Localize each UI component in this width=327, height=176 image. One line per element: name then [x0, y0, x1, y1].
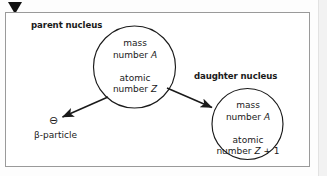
spacer	[104, 65, 166, 69]
daughter-nucleus-text: mass number A atomic number Z + 1	[210, 100, 286, 158]
daughter-mass-number-line: number A	[210, 112, 286, 124]
spacer	[210, 127, 286, 131]
beta-particle-label: β-particle	[18, 130, 93, 140]
parent-nucleus-text: mass number A atomic number Z	[104, 38, 166, 96]
mass-number-symbol: A	[151, 50, 157, 60]
parent-nucleus-caption: parent nucleus	[31, 20, 102, 30]
parent-mass-line: mass	[104, 38, 166, 50]
mass-number-symbol: A	[264, 112, 270, 122]
page-edge	[318, 0, 327, 176]
daughter-atomic-line: atomic	[210, 135, 286, 147]
beta-decay-diagram: parent nucleus daughter nucleus mass num…	[0, 0, 327, 176]
atomic-number-increment: + 1	[261, 146, 280, 156]
daughter-atomic-number-line: number Z + 1	[210, 146, 286, 158]
daughter-mass-line: mass	[210, 100, 286, 112]
atomic-number-symbol: Z	[151, 84, 157, 94]
parent-atomic-number-line: number Z	[104, 84, 166, 96]
parent-atomic-line: atomic	[104, 73, 166, 85]
negative-charge-icon: ⊖	[47, 114, 60, 127]
daughter-nucleus-caption: daughter nucleus	[194, 71, 277, 81]
parent-mass-number-line: number A	[104, 50, 166, 62]
